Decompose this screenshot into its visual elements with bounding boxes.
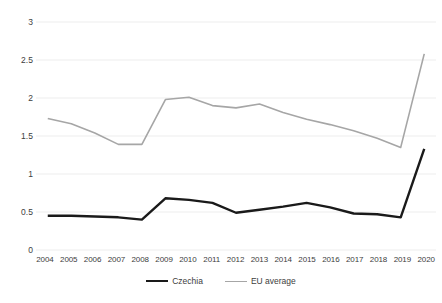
x-axis-tick-label: 2012 (224, 256, 248, 270)
x-axis-tick-label: 2013 (247, 256, 271, 270)
y-axis-tick-label: 1 (5, 170, 33, 179)
series-line-czechia (48, 149, 424, 220)
x-axis-tick-label: 2016 (319, 256, 343, 270)
x-axis-tick-label: 2007 (104, 256, 128, 270)
legend-swatch-czechia-icon (146, 280, 168, 282)
x-axis-tick-label: 2006 (81, 256, 105, 270)
x-axis-tick-label: 2020 (414, 256, 438, 270)
x-axis-tick-label: 2015 (295, 256, 319, 270)
y-axis-tick-label: 2.5 (5, 56, 33, 65)
x-axis-tick-label: 2008 (128, 256, 152, 270)
y-axis-tick-label: 2 (5, 94, 33, 103)
y-axis-tick-label: 0 (5, 246, 33, 255)
x-axis-tick-label: 2018 (367, 256, 391, 270)
legend-label-czechia: Czechia (172, 277, 203, 286)
x-axis-tick-label: 2004 (33, 256, 57, 270)
y-axis-tick-label: 0.5 (5, 208, 33, 217)
x-axis-tick-labels: 2004200520062007200820092010201120122013… (33, 256, 438, 270)
x-axis-tick-label: 2005 (57, 256, 81, 270)
chart-legend: Czechia EU average (0, 277, 442, 286)
x-axis-tick-label: 2010 (176, 256, 200, 270)
y-axis-tick-labels: 00.511.522.53 (0, 0, 33, 303)
legend-swatch-eu-average-icon (225, 281, 247, 282)
legend-item-eu-average: EU average (225, 277, 296, 286)
series-lines (48, 54, 424, 220)
line-chart: 00.511.522.53 20042005200620072008200920… (0, 0, 442, 303)
x-axis-tick-label: 2014 (271, 256, 295, 270)
legend-label-eu-average: EU average (251, 277, 296, 286)
series-line-eu-average (48, 54, 424, 147)
x-axis-tick-label: 2011 (200, 256, 224, 270)
x-axis-tick-label: 2019 (390, 256, 414, 270)
y-axis-tick-label: 3 (5, 18, 33, 27)
y-axis-tick-label: 1.5 (5, 132, 33, 141)
x-axis-tick-label: 2009 (152, 256, 176, 270)
legend-item-czechia: Czechia (146, 277, 203, 286)
x-axis-tick-label: 2017 (343, 256, 367, 270)
